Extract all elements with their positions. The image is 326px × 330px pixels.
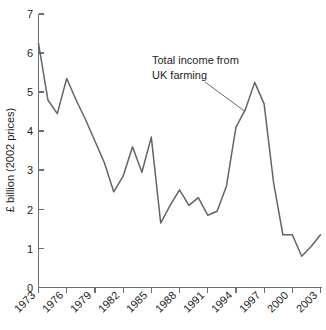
y-axis-title: £ billion (2002 prices) (4, 108, 16, 213)
annotation-leader-line (205, 82, 245, 112)
x-tick-label-2003: 2003 (294, 289, 320, 315)
x-tick-label-1991: 1991 (181, 289, 207, 315)
line-chart: £ billion (2002 prices) 7 6 5 4 3 2 1 0 (0, 0, 326, 330)
annotation: Total income from UK farming (152, 54, 245, 112)
x-tick-label-1994: 1994 (209, 289, 235, 315)
chart-container: £ billion (2002 prices) 7 6 5 4 3 2 1 0 (0, 0, 326, 330)
annotation-line-2: UK farming (152, 69, 207, 81)
x-tick-label-1985: 1985 (124, 289, 150, 315)
x-tick-label-1976: 1976 (40, 289, 66, 315)
y-tick-label-1: 1 (27, 243, 33, 255)
y-tick-label-3: 3 (27, 164, 33, 176)
y-tick-label-6: 6 (27, 47, 33, 59)
y-tick-label-4: 4 (27, 125, 33, 137)
x-tick-label-1979: 1979 (68, 289, 94, 315)
annotation-line-1: Total income from (152, 54, 239, 66)
y-axis-ticks: 7 6 5 4 3 2 1 0 (27, 8, 44, 294)
x-tick-label-1973: 1973 (12, 289, 38, 315)
x-tick-label-2000: 2000 (265, 289, 291, 315)
y-tick-label-5: 5 (27, 86, 33, 98)
y-tick-label-2: 2 (27, 204, 33, 216)
y-tick-label-7: 7 (27, 8, 33, 20)
x-axis-labels: 1973 1976 1979 1982 1985 1988 1991 1994 … (12, 289, 320, 315)
x-tick-label-1982: 1982 (96, 289, 122, 315)
x-tick-label-1997: 1997 (237, 289, 263, 315)
x-tick-label-1988: 1988 (153, 289, 179, 315)
